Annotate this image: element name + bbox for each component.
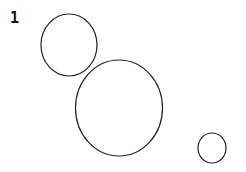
circle-small [198,133,226,163]
circles-diagram [0,0,246,172]
circle-large [76,60,163,156]
circle-medium [41,14,97,76]
